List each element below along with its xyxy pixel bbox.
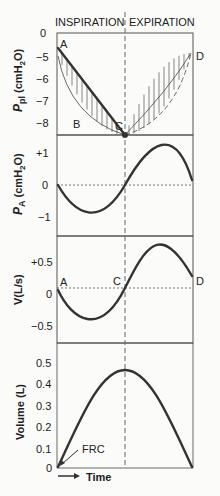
header-expiration: EXPIRATION	[129, 16, 195, 28]
ytick-minus5: −5	[36, 51, 49, 63]
ytick-minus6: −6	[36, 73, 49, 85]
ytick-minus1: −1	[38, 211, 51, 223]
pleural-hatch-expiration	[129, 53, 189, 135]
curve-c-d-upper	[125, 53, 191, 135]
ytick-zero: 0	[42, 179, 48, 191]
ytick-0-1: 0.1	[36, 443, 51, 455]
ytick-plus0-5: +0.5	[31, 256, 53, 268]
airflow-point-c: C	[113, 275, 121, 287]
header-inspiration: INSPIRATION	[55, 16, 125, 28]
ytick-0: 0	[40, 27, 46, 39]
point-b-label: B	[73, 118, 80, 130]
ytick-0-3: 0.3	[36, 400, 51, 412]
time-label: Time	[86, 471, 111, 483]
pleural-ticks: 0 −5 −6 −7 −8	[36, 27, 49, 129]
ytick-0-2: 0.2	[36, 421, 51, 433]
curve-c-d-dashed	[125, 53, 191, 135]
ytick-plus1: +1	[36, 147, 49, 159]
respiratory-cycle-chart: INSPIRATION EXPIRATION 0 −5 −6 −7 −8 A B…	[0, 0, 220, 496]
ytick-0: 0	[46, 462, 52, 474]
volume-ylabel: Volume (L)	[14, 384, 26, 440]
time-arrowhead	[74, 473, 80, 479]
alveolar-pressure-curve	[58, 145, 192, 213]
airflow-point-a: A	[60, 276, 68, 288]
frc-annotation: FRC	[82, 443, 105, 455]
airflow-ylabel: V(L/s)	[12, 274, 24, 305]
ytick-minus8: −8	[36, 117, 49, 129]
point-c-marker	[122, 132, 128, 138]
ytick-0-4: 0.4	[36, 378, 51, 390]
point-c-label: C	[115, 120, 123, 132]
pleural-ylabel: Ppl (cmH2O)	[11, 48, 27, 112]
ytick-zero: 0	[46, 288, 52, 300]
point-d-label: D	[196, 50, 204, 62]
ytick-minus7: −7	[36, 95, 49, 107]
point-a-label: A	[60, 38, 68, 50]
ytick-0-5: 0.5	[36, 357, 51, 369]
alveolar-ylabel: PA (cmH2O)	[11, 153, 27, 215]
airflow-point-d: D	[196, 275, 204, 287]
ytick-minus0-5: −0.5	[31, 320, 53, 332]
